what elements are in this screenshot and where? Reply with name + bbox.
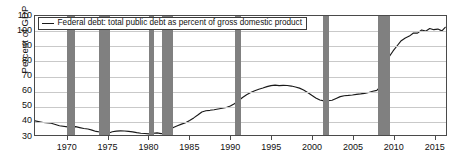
x-tick-mark bbox=[435, 136, 436, 140]
y-tick-label: 30 bbox=[10, 132, 32, 141]
recession-band bbox=[162, 16, 173, 135]
x-tick-label: 2005 bbox=[336, 142, 370, 152]
x-tick-mark bbox=[271, 136, 272, 140]
x-tick-label: 2015 bbox=[418, 142, 452, 152]
recession-band bbox=[235, 16, 241, 135]
y-tick-label: 100 bbox=[10, 26, 32, 35]
x-tick-label: 1995 bbox=[254, 142, 288, 152]
y-tick-label: 70 bbox=[10, 71, 32, 80]
x-tick-mark bbox=[230, 136, 231, 140]
y-tick-label: 90 bbox=[10, 41, 32, 50]
x-tick-label: 1970 bbox=[50, 142, 84, 152]
x-tick-label: 2000 bbox=[295, 142, 329, 152]
chart-legend: Federal debt: total public debt as perce… bbox=[38, 17, 307, 30]
recession-band bbox=[378, 16, 390, 135]
x-tick-mark bbox=[312, 136, 313, 140]
chart-figure: Percent of GDP 11010090807060504030 Fede… bbox=[0, 0, 454, 163]
legend-line-swatch bbox=[42, 23, 54, 24]
y-tick-label: 110 bbox=[10, 11, 32, 20]
recession-band bbox=[67, 16, 75, 135]
x-tick-mark bbox=[189, 136, 190, 140]
y-axis-tick-labels: 11010090807060504030 bbox=[8, 0, 32, 163]
x-tick-mark bbox=[148, 136, 149, 140]
y-tick-label: 50 bbox=[10, 101, 32, 110]
y-tick-label: 80 bbox=[10, 56, 32, 65]
x-tick-label: 2010 bbox=[377, 142, 411, 152]
x-tick-label: 1990 bbox=[213, 142, 247, 152]
x-tick-mark bbox=[394, 136, 395, 140]
plot-area bbox=[34, 15, 447, 136]
x-tick-mark bbox=[108, 136, 109, 140]
recession-band bbox=[149, 16, 153, 135]
x-tick-label: 1975 bbox=[91, 142, 125, 152]
x-tick-mark bbox=[353, 136, 354, 140]
x-tick-label: 1980 bbox=[131, 142, 165, 152]
x-tick-label: 1985 bbox=[172, 142, 206, 152]
y-tick-label: 40 bbox=[10, 116, 32, 125]
legend-label: Federal debt: total public debt as perce… bbox=[58, 19, 302, 27]
recession-band bbox=[99, 16, 110, 135]
recession-band bbox=[323, 16, 329, 135]
y-tick-label: 60 bbox=[10, 86, 32, 95]
x-tick-mark bbox=[67, 136, 68, 140]
